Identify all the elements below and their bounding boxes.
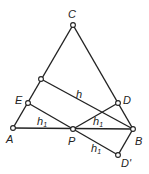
geometry-diagram: C E A P B D D' h h1 h1 h1 xyxy=(0,0,149,174)
label-e: E xyxy=(15,94,23,106)
label-h1-right: h1 xyxy=(93,115,103,128)
point-dprime xyxy=(116,153,121,158)
point-b xyxy=(131,127,136,132)
point-a xyxy=(11,126,16,131)
label-h: h xyxy=(76,88,82,100)
label-p: P xyxy=(68,135,76,147)
label-c: C xyxy=(68,8,76,20)
side-ac xyxy=(13,25,73,128)
label-b: B xyxy=(135,135,142,147)
point-p xyxy=(71,127,76,132)
label-a: A xyxy=(5,133,13,145)
label-h1-left: h1 xyxy=(37,115,47,128)
segment-bdprime xyxy=(118,129,133,155)
label-d: D xyxy=(123,94,131,106)
point-e xyxy=(26,101,31,106)
point-foot-h xyxy=(39,77,44,82)
point-d xyxy=(116,101,121,106)
point-c xyxy=(71,23,76,28)
label-dprime: D' xyxy=(121,157,132,169)
